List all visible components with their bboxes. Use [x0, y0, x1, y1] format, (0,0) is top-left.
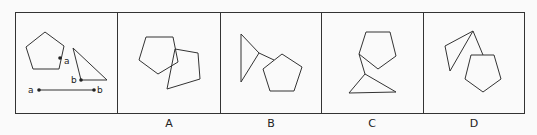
option-d-figure[interactable]	[445, 31, 501, 92]
option-b-figure[interactable]	[241, 34, 302, 91]
option-b-label[interactable]: B	[261, 117, 281, 130]
svg-text:b: b	[71, 75, 77, 85]
svg-text:a: a	[64, 56, 70, 66]
option-c-figure[interactable]	[349, 32, 396, 93]
option-a-label[interactable]: A	[159, 117, 179, 130]
pentagon-shape	[26, 32, 64, 69]
svg-text:b: b	[97, 85, 103, 95]
option-d-label[interactable]: D	[464, 117, 484, 130]
option-c-label[interactable]: C	[362, 117, 382, 130]
svg-text:a: a	[28, 85, 34, 95]
option-a-figure[interactable]	[139, 37, 200, 89]
puzzle-figure: a b a b	[0, 0, 537, 135]
triangle-shape	[73, 48, 107, 80]
